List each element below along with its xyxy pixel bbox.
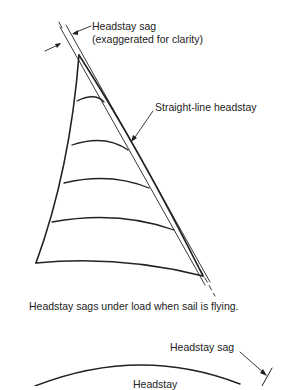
label-headstay-sag: Headstay sag: [92, 20, 156, 32]
label-straight-line-headstay: Straight-line headstay: [155, 101, 257, 113]
label-exaggerated: (exaggerated for clarity): [92, 33, 203, 45]
draft-stripe-4: [52, 218, 174, 231]
sail-foot: [36, 261, 203, 276]
label-bottom-headstay-sag: Headstay sag: [170, 341, 234, 353]
label-bottom-headstay-partial: Headstay: [133, 378, 177, 390]
sail-luff: [79, 55, 203, 276]
straight-headstay-leader: [133, 111, 153, 140]
bottom-sag-leader: [240, 352, 265, 374]
caption-top-figure: Headstay sags under load when sail is fl…: [29, 300, 239, 312]
sag-arrowhead-right: [72, 30, 78, 35]
draft-stripe-3: [64, 179, 149, 188]
sag-arrowhead-left: [55, 43, 61, 48]
sail-leech: [36, 55, 79, 263]
draft-stripe-2: [72, 141, 128, 150]
headstay-line-left: [60, 27, 205, 285]
